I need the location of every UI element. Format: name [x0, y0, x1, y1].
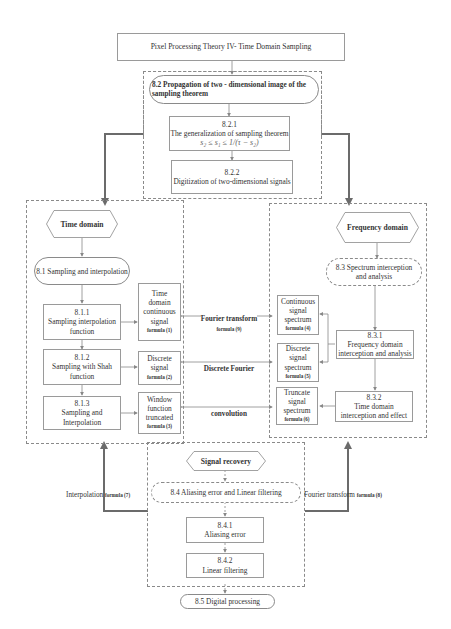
- section-8-1-label: 8.1 Sampling and interpolation: [36, 267, 128, 276]
- box-8-1-1: 8.1.1 Sampling interpolation function: [43, 304, 121, 340]
- section-8-3-pill: 8.3 Spectrum interception and analysis: [326, 258, 422, 286]
- box-8-1-2-label: Sampling with Shah function: [44, 362, 120, 380]
- page-header-fragment-left: [60, 0, 80, 3]
- section-8-3-label: 8.3 Spectrum interception and analysis: [335, 263, 413, 281]
- section-8-1-pill: 8.1 Sampling and interpolation: [34, 257, 130, 285]
- link-discrete-fourier: Discrete Fourier: [190, 357, 268, 375]
- box-8-1-2: 8.1.2 Sampling with Shah function: [43, 349, 121, 385]
- box-8-2-1-label: The generalization of sampling theorem: [170, 129, 288, 138]
- spectrum-3-label: Truncate signal spectrum: [277, 388, 317, 416]
- spectrum-1-formula: formula (4): [285, 324, 310, 333]
- box-8-4-1: 8.4.1 Aliasing error: [186, 517, 264, 543]
- result-window-function: Window function truncated formula (3): [138, 392, 181, 434]
- result-discrete-signal: Discrete signal formula (2): [138, 351, 181, 385]
- box-8-3-1: 8.3.1 Frequency domain interception and …: [336, 330, 414, 359]
- link-fourier-transform: Fourier transform formula (9): [190, 307, 268, 333]
- diagram-title: Pixel Processing Theory IV- Time Domain …: [117, 33, 345, 61]
- fourier-formula: formula (8): [357, 492, 382, 498]
- section-8-2-title: 8.2 Propagation of two - dimensional ima…: [152, 81, 318, 98]
- link-3-label: convolution: [210, 410, 248, 418]
- spectrum-discrete: Discrete signal spectrum formula (5): [277, 343, 319, 382]
- link-1-formula: formula (9): [190, 325, 268, 333]
- section-8-4-pill: 8.4 Aliasing error and Linear filtering: [151, 482, 301, 503]
- box-8-1-3-number: 8.1.3: [75, 399, 90, 408]
- box-8-3-2-label: Time domain interception and effect: [336, 402, 412, 420]
- box-8-4-2-number: 8.4.2: [218, 556, 233, 565]
- result-time-domain-continuous: Time domain continuous signal formula (1…: [138, 283, 181, 341]
- section-8-5-label: 8.5 Digital processing: [195, 597, 260, 606]
- fourier-text: Fourier transform: [304, 491, 355, 499]
- box-8-3-1-label: Frequency domain interception and analys…: [337, 340, 413, 358]
- title-text: Pixel Processing Theory IV- Time Domain …: [151, 42, 312, 51]
- result-2-formula: formula (2): [147, 373, 172, 382]
- interpolation-formula: formula (7): [105, 492, 130, 498]
- spectrum-2-formula: formula (5): [285, 372, 310, 381]
- box-8-4-2: 8.4.2 Linear filtering: [186, 553, 264, 578]
- result-3-formula: formula (3): [147, 422, 172, 431]
- box-8-2-1-number: 8.2.1: [222, 120, 237, 129]
- spectrum-1-label: Continuous signal spectrum: [278, 297, 318, 325]
- box-8-3-1-number: 8.3.1: [368, 331, 383, 340]
- box-8-4-2-label: Linear filtering: [203, 566, 248, 575]
- box-8-2-2: 8.2.2 Digitization of two-dimensional si…: [171, 160, 293, 194]
- section-8-2-pill: 8.2 Propagation of two - dimensional ima…: [149, 75, 319, 104]
- time-domain-label: Time domain: [60, 220, 103, 229]
- box-8-2-1-formula: s₂ ≤ s₁ ≤ 1/(τ − s₂): [200, 138, 258, 147]
- spectrum-3-formula: formula (6): [284, 415, 309, 424]
- box-8-1-2-number: 8.1.2: [75, 353, 90, 362]
- frequency-domain-header: Frequency domain: [336, 212, 419, 243]
- box-8-2-1: 8.2.1 The generalization of sampling the…: [169, 116, 290, 151]
- box-8-4-1-label: Aliasing error: [204, 530, 245, 539]
- result-1-label: Time domain continuous signal: [142, 289, 177, 326]
- link-1-label: Fourier transform: [201, 315, 257, 323]
- time-domain-header: Time domain: [46, 210, 118, 238]
- spectrum-truncate: Truncate signal spectrum formula (6): [276, 387, 318, 425]
- box-8-2-2-label: Digitization of two-dimensional signals: [173, 177, 290, 186]
- result-2-label: Discrete signal: [143, 354, 176, 372]
- box-8-4-1-number: 8.4.1: [218, 521, 233, 530]
- box-8-2-2-number: 8.2.2: [225, 168, 240, 177]
- section-8-5-pill: 8.5 Digital processing: [180, 594, 275, 609]
- link-2-label: Discrete Fourier: [203, 365, 255, 373]
- box-8-1-1-number: 8.1.1: [75, 308, 90, 317]
- signal-recovery-label: Signal recovery: [201, 457, 251, 466]
- spectrum-2-label: Discrete signal spectrum: [278, 344, 318, 372]
- spectrum-continuous: Continuous signal spectrum formula (4): [277, 295, 319, 335]
- frequency-domain-label: Frequency domain: [347, 223, 408, 232]
- link-convolution: convolution: [190, 402, 268, 420]
- box-8-3-2: 8.3.2 Time domain interception and effec…: [335, 391, 413, 422]
- result-1-formula: formula (1): [147, 326, 172, 335]
- fourier-link-label: Fourier transform formula (8): [304, 491, 382, 499]
- section-8-4-label: 8.4 Aliasing error and Linear filtering: [170, 488, 281, 497]
- box-8-1-1-label: Sampling interpolation function: [44, 317, 120, 335]
- signal-recovery-header: Signal recovery: [186, 451, 266, 471]
- result-3-label: Window function truncated: [142, 395, 177, 423]
- interpolation-link-label: Interpolation formula (7): [66, 491, 130, 499]
- box-8-1-3: 8.1.3 Sampling and Interpolation: [43, 396, 121, 430]
- box-8-1-3-label: Sampling and Interpolation: [44, 408, 120, 426]
- interpolation-text: Interpolation: [66, 491, 103, 499]
- box-8-3-2-number: 8.3.2: [367, 393, 382, 402]
